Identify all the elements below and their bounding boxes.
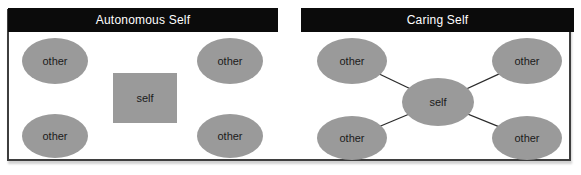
other-node: other: [22, 38, 88, 84]
panel-title: Autonomous Self: [96, 13, 190, 27]
other-node: other: [492, 116, 562, 160]
panel-header-autonomous-self: Autonomous Self: [8, 8, 278, 32]
node-label: other: [339, 55, 364, 67]
node-label: other: [514, 132, 539, 144]
other-node: other: [492, 38, 562, 84]
node-label: self: [429, 96, 446, 108]
self-node-ellipse: self: [402, 78, 474, 126]
other-node: other: [317, 116, 387, 160]
node-label: self: [136, 92, 153, 104]
diagram-canvas: Autonomous Self Caring Self other other …: [0, 0, 581, 175]
node-label: other: [339, 132, 364, 144]
other-node: other: [197, 38, 263, 84]
node-label: other: [217, 55, 242, 67]
node-label: other: [42, 130, 67, 142]
node-label: other: [217, 130, 242, 142]
other-node: other: [197, 114, 263, 158]
node-label: other: [42, 55, 67, 67]
panel-title: Caring Self: [407, 13, 469, 27]
panel-header-caring-self: Caring Self: [301, 8, 574, 32]
other-node: other: [317, 38, 387, 84]
other-node: other: [22, 114, 88, 158]
node-label: other: [514, 55, 539, 67]
self-node-square: self: [113, 73, 177, 123]
